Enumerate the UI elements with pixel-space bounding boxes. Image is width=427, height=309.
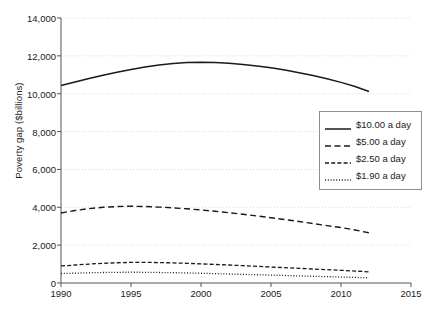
legend-item: $2.50 a day	[320, 150, 421, 167]
legend-item-label: $2.50 a day	[356, 153, 406, 164]
series-line	[61, 62, 369, 91]
legend-line-swatch-icon	[325, 137, 351, 147]
legend-line-swatch-icon	[325, 120, 351, 130]
legend: $10.00 a day$5.00 a day$2.50 a day$1.90 …	[319, 111, 422, 190]
legend-item: $1.90 a day	[320, 167, 421, 184]
legend-item: $5.00 a day	[320, 133, 421, 150]
poverty-gap-line-chart: Poverty gap ($billions) 02,0004,0006,000…	[0, 0, 427, 309]
legend-item-label: $10.00 a day	[356, 119, 411, 130]
legend-line-swatch-icon	[325, 171, 351, 181]
legend-item: $10.00 a day	[320, 116, 421, 133]
legend-line-swatch-icon	[325, 154, 351, 164]
series-line	[61, 272, 369, 278]
legend-item-label: $5.00 a day	[356, 136, 406, 147]
legend-item-label: $1.90 a day	[356, 170, 406, 181]
series-line	[61, 206, 369, 233]
series-line	[61, 262, 369, 271]
